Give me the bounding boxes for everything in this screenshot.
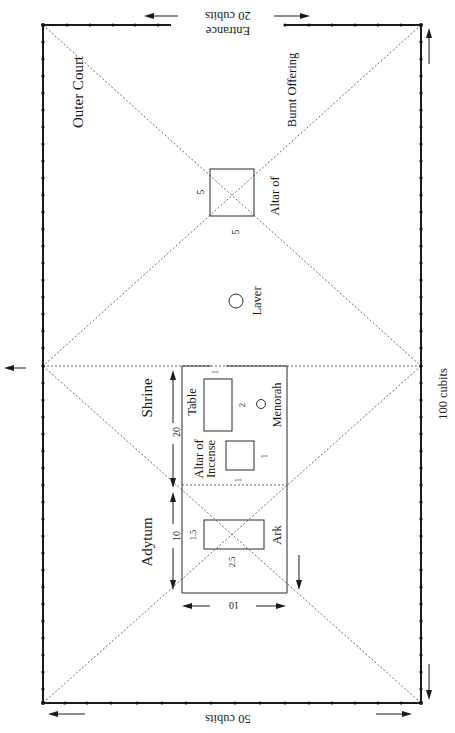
court-width-dimension: 50 cubits <box>48 711 412 726</box>
table-short-dimension: 1 <box>210 370 220 374</box>
ark-label: Ark <box>270 525 284 545</box>
court-length-label: 100 cubits <box>436 368 450 420</box>
left-direction-marker <box>4 365 26 371</box>
adytum-label: Adytum <box>139 517 155 567</box>
shrine-length-label: 20 <box>171 427 182 437</box>
altar-burnt-offering-label-2: Burnt Offering <box>285 52 299 127</box>
altar-bottom-dimension: 5 <box>230 230 241 235</box>
altar-incense-label-2: Incense <box>204 439 218 478</box>
outer-court-label: Outer Court <box>70 55 86 128</box>
tabernacle-plan-diagram: 20 cubits Entrance 5 5 Altar of Burnt Of… <box>0 0 455 733</box>
laver-label: Laver <box>250 286 264 316</box>
ark-long-dimension: 2.5 <box>227 557 237 568</box>
court-width-label: 50 cubits <box>205 712 251 726</box>
building-width-label: 10 <box>229 600 239 611</box>
laver: Laver <box>229 286 264 316</box>
shrine-label: Shrine <box>139 378 155 418</box>
entrance-width-label: 20 cubits <box>205 9 251 23</box>
altar-incense-dimension-b: 1 <box>259 454 269 458</box>
altar-of-incense: Altar of Incense 1 1 <box>192 439 269 483</box>
altar-incense-dimension-a: 1 <box>233 478 243 482</box>
altar-of-burnt-offering: 5 5 Altar of Burnt Offering <box>195 52 299 234</box>
table-label: Table <box>185 388 199 416</box>
court-length-dimension: 100 cubits <box>426 28 450 700</box>
ark-short-dimension: 1.5 <box>188 530 198 541</box>
menorah-label: Menorah <box>270 382 284 428</box>
altar-burnt-offering-label-1: Altar of <box>268 176 282 216</box>
building-width-dimension: 10 <box>182 600 286 611</box>
table-long-dimension: 2 <box>237 403 247 407</box>
menorah: Menorah <box>257 382 285 428</box>
table: Table 1 2 <box>185 370 247 431</box>
altar-side-dimension: 5 <box>195 190 206 195</box>
ark: Ark 1.5 2.5 <box>188 520 284 567</box>
entrance-label: Entrance <box>205 24 250 38</box>
adytum-length-label: 10 <box>171 531 182 541</box>
